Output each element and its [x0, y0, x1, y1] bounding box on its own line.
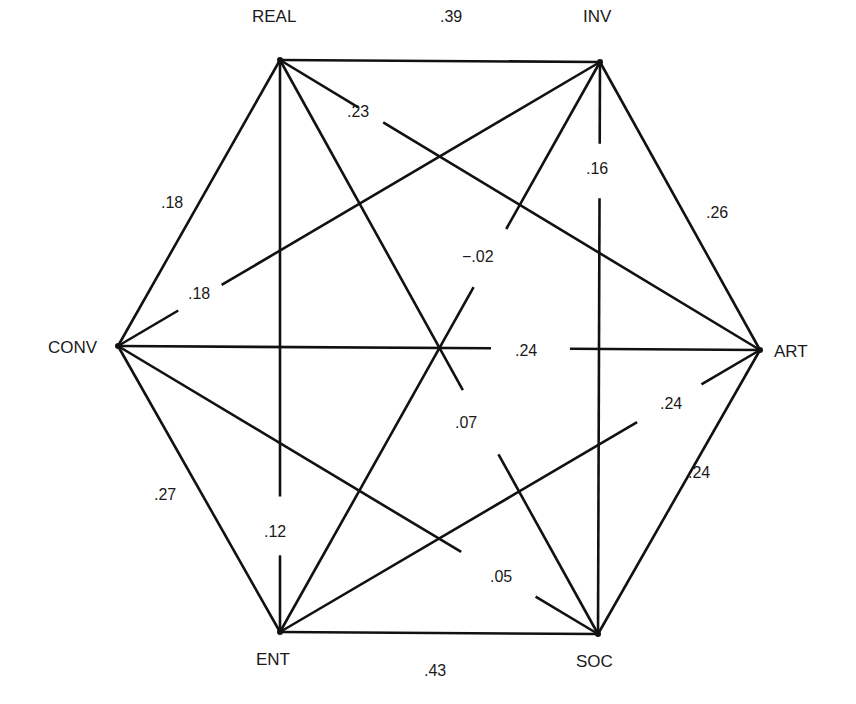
edge-conv-real-segment: [118, 60, 280, 346]
edge-inv-art: [600, 62, 760, 350]
edge-art-soc-segment: [598, 350, 760, 634]
node-label-real: REAL: [252, 7, 296, 26]
edge-conv-soc-segment: [118, 346, 461, 552]
node-label-inv: INV: [583, 7, 612, 26]
edge-inv-art-segment: [600, 62, 760, 350]
edge-conv-soc: [118, 346, 598, 634]
edge-value-conv-soc: .05: [490, 568, 512, 585]
node-label-ent: ENT: [256, 650, 290, 669]
node-label-soc: SOC: [576, 652, 613, 671]
edge-conv-art-segment: [118, 346, 491, 348]
edge-art-soc: [598, 350, 760, 634]
edge-value-real-soc: .07: [455, 414, 477, 431]
edge-value-real-ent: .12: [264, 523, 286, 540]
edge-value-inv-conv: .18: [188, 285, 210, 302]
edges-group: [118, 60, 760, 634]
node-conv-vertex: [115, 343, 121, 349]
edge-real-inv: [280, 60, 600, 62]
node-inv-vertex: [597, 59, 603, 65]
edge-value-ent-conv: .27: [154, 486, 176, 503]
edge-inv-soc-segment: [598, 198, 600, 634]
edge-value-soc-ent: .43: [424, 662, 446, 679]
edge-value-real-art: .23: [347, 103, 369, 120]
node-ent-vertex: [277, 629, 283, 635]
edge-value-art-soc: .24: [688, 464, 710, 481]
node-real-vertex: [277, 57, 283, 63]
edge-soc-ent: [280, 632, 598, 634]
edge-inv-conv-segment: [222, 62, 600, 285]
edge-ent-conv-segment: [118, 346, 280, 632]
hexagon-correlation-diagram: .39.26.24.43.27.18.23.07.12.18.16−.02.24…: [0, 0, 856, 704]
node-label-conv: CONV: [48, 338, 98, 357]
nodes-group: REALINVARTSOCENTCONV: [48, 7, 808, 671]
edge-conv-art-segment: [570, 349, 760, 350]
node-art-vertex: [757, 347, 763, 353]
edge-value-real-inv: .39: [440, 8, 462, 25]
edge-value-conv-real: .18: [161, 194, 183, 211]
edge-value-inv-art: .26: [706, 204, 728, 221]
edge-value-art-ent: .24: [660, 395, 682, 412]
edge-value-conv-art: .24: [515, 342, 537, 359]
edge-soc-ent-segment: [280, 632, 598, 634]
edge-conv-real: [118, 60, 280, 346]
node-soc-vertex: [595, 631, 601, 637]
edge-art-ent-segment: [280, 422, 637, 632]
edge-ent-conv: [118, 346, 280, 632]
edge-art-ent: [280, 350, 760, 632]
edge-real-soc-segment: [498, 454, 598, 634]
edge-real-soc-segment: [280, 60, 463, 390]
edge-real-inv-segment: [280, 60, 600, 62]
node-label-art: ART: [774, 342, 808, 361]
edge-value-inv-soc: .16: [586, 160, 608, 177]
edge-value-inv-ent: −.02: [462, 248, 494, 265]
edge-inv-ent-segment: [506, 62, 600, 229]
